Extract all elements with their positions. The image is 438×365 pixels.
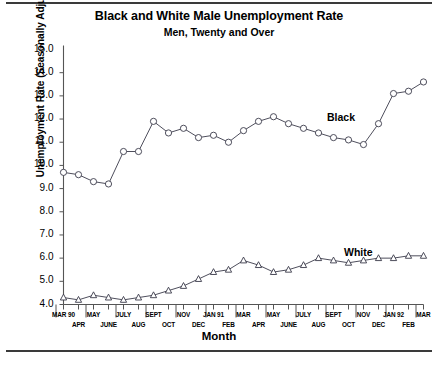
marker-triangle-white xyxy=(180,283,186,289)
marker-circle-black xyxy=(285,121,291,127)
marker-circle-black xyxy=(420,79,426,85)
y-tick-label: 5.0 xyxy=(20,274,54,285)
marker-circle-black xyxy=(375,121,381,127)
series-label-black: Black xyxy=(327,111,355,123)
marker-circle-black xyxy=(240,128,246,134)
marker-circle-black xyxy=(150,118,156,124)
y-tick-label: 9.0 xyxy=(20,182,54,193)
marker-circle-black xyxy=(330,134,336,140)
marker-triangle-white xyxy=(195,276,201,282)
y-tick-label: 6.0 xyxy=(20,251,54,262)
marker-circle-black xyxy=(75,172,81,178)
chart-figure: Black and White Male Unemployment Rate M… xyxy=(0,0,438,365)
marker-circle-black xyxy=(165,130,171,136)
marker-circle-black xyxy=(345,137,351,143)
y-tick-label: 4.0 xyxy=(20,298,54,309)
y-tick-label: 15.0 xyxy=(20,43,54,54)
marker-circle-black xyxy=(255,118,261,124)
series-label-white: White xyxy=(344,246,373,258)
marker-circle-black xyxy=(120,148,126,154)
y-tick-label: 7.0 xyxy=(20,228,54,239)
marker-circle-black xyxy=(270,114,276,120)
marker-circle-black xyxy=(225,139,231,145)
marker-circle-black xyxy=(300,125,306,131)
marker-triangle-white xyxy=(60,294,66,300)
y-tick-label: 14.0 xyxy=(20,66,54,77)
y-tick-label: 10.0 xyxy=(20,158,54,169)
y-tick-label: 12.0 xyxy=(20,112,54,123)
marker-triangle-white xyxy=(315,255,321,261)
marker-circle-black xyxy=(210,132,216,138)
marker-circle-black xyxy=(195,134,201,140)
marker-circle-black xyxy=(135,148,141,154)
marker-circle-black xyxy=(60,169,66,175)
marker-triangle-white xyxy=(375,255,381,261)
marker-circle-black xyxy=(90,179,96,185)
x-tick-label: FEB xyxy=(389,321,429,328)
marker-circle-black xyxy=(405,88,411,94)
marker-triangle-white xyxy=(240,257,246,263)
marker-triangle-white xyxy=(225,266,231,272)
marker-triangle-white xyxy=(90,292,96,298)
y-tick-label: 8.0 xyxy=(20,205,54,216)
marker-circle-black xyxy=(315,130,321,136)
x-tick-label: MAR xyxy=(404,311,438,318)
marker-circle-black xyxy=(390,90,396,96)
marker-triangle-white xyxy=(420,252,426,258)
marker-triangle-white xyxy=(300,262,306,268)
marker-circle-black xyxy=(180,125,186,131)
marker-circle-black xyxy=(105,181,111,187)
y-tick-label: 11.0 xyxy=(20,135,54,146)
marker-triangle-white xyxy=(405,252,411,258)
marker-circle-black xyxy=(360,141,366,147)
y-tick-label: 13.0 xyxy=(20,89,54,100)
